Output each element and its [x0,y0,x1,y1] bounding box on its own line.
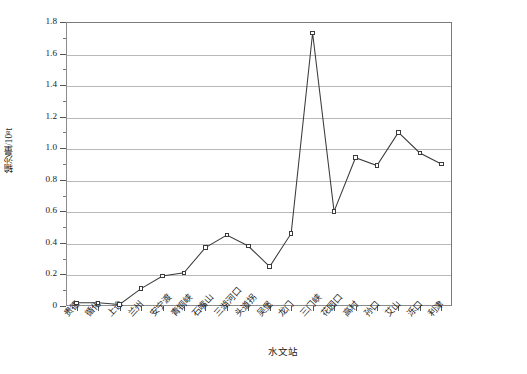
gridline [67,244,451,245]
y-tick-label: 0.8 [46,175,57,184]
gridline [67,275,451,276]
y-tick [60,85,66,86]
y-tick-minor [63,196,66,197]
chart-figure: 输沙量/10⁸t 00.20.40.60.81.01.21.41.61.8 贵德… [0,0,527,374]
data-point-marker [418,151,423,156]
y-tick-label: 1.6 [46,49,57,58]
y-tick-label: 1.0 [46,143,57,152]
y-tick [60,274,66,275]
y-tick-minor [63,227,66,228]
data-point-marker [225,233,230,238]
y-tick-minor [63,290,66,291]
data-point-marker [96,301,101,306]
y-tick-label: 0.4 [46,238,57,247]
y-tick-label: 0 [52,301,57,310]
data-point-marker [396,130,401,135]
y-tick [60,54,66,55]
y-tick-label: 1.4 [46,80,57,89]
y-tick [60,22,66,23]
y-tick-minor [63,259,66,260]
gridline [67,86,451,87]
y-tick-minor [63,69,66,70]
x-axis-title: 水文站 [268,344,298,358]
data-point-marker [375,163,380,168]
gridline [67,55,451,56]
data-point-marker [332,209,337,214]
y-tick-label: 0.6 [46,206,57,215]
data-point-marker [117,302,122,307]
data-point-marker [182,271,187,276]
y-tick [60,180,66,181]
plot-area [66,22,452,306]
y-axis-line [66,22,67,306]
y-tick-minor [63,132,66,133]
data-point-marker [310,31,315,36]
data-point-marker [160,274,165,279]
y-tick [60,243,66,244]
data-point-marker [289,231,294,236]
y-tick [60,148,66,149]
y-tick [60,117,66,118]
gridline [67,149,451,150]
gridline [67,181,451,182]
data-point-marker [139,286,144,291]
data-point-marker [246,244,251,249]
data-point-marker [439,162,444,167]
data-point-marker [267,264,272,269]
y-tick-minor [63,164,66,165]
y-tick-minor [63,38,66,39]
data-point-marker [353,155,358,160]
y-tick-label: 1.8 [46,17,57,26]
y-tick [60,211,66,212]
data-point-marker [203,245,208,250]
y-tick-label: 0.2 [46,269,57,278]
y-tick-minor [63,101,66,102]
data-point-marker [74,301,79,306]
gridline [67,118,451,119]
y-axis-title: 输沙量/10⁸t [4,128,18,173]
gridline [67,212,451,213]
y-tick-label: 1.2 [46,112,57,121]
